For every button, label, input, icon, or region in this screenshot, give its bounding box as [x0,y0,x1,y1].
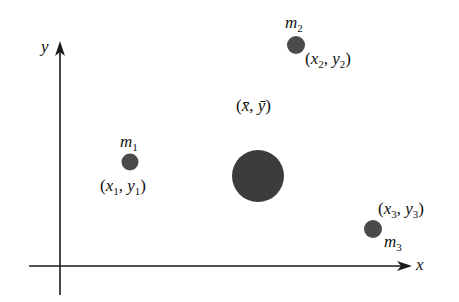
mass-1-y: y [127,176,135,195]
mass-2-name: m2 [285,14,303,31]
mass-2-coords: (x2, y2) [305,50,351,67]
diagram-canvas [0,0,459,302]
mass-2-name-base: m [285,13,297,32]
mass-3-name-base: m [384,232,396,251]
paren-close: ) [345,49,351,68]
comma: , [324,49,333,68]
comma: , [249,96,258,115]
center-of-mass-point [232,150,284,202]
center-of-mass-coords: (x̄, ȳ) [236,97,271,114]
comma: , [119,176,128,195]
mass-3-coords: (x3, y3) [378,200,424,217]
paren-close: ) [418,199,424,218]
paren-close: ) [140,176,146,195]
y-axis-label: y [41,38,49,55]
y-axis-label-text: y [41,37,49,56]
x-axis-label-text: x [416,255,424,274]
mass-2-point [287,36,305,54]
mass-1-name: m1 [120,133,138,150]
mass-3-name: m3 [384,233,402,250]
mass-3-y: y [405,199,413,218]
paren-close: ) [265,96,271,115]
mass-1-name-base: m [120,132,132,151]
mass-3-name-sub: 3 [396,241,402,253]
mass-1-point [122,154,139,171]
mass-1-coords: (x1, y1) [100,177,146,194]
comma: , [397,199,406,218]
mass-3-point [364,220,382,238]
mass-1-name-sub: 1 [132,141,138,153]
mass-2-name-sub: 2 [297,22,303,34]
x-axis-label: x [416,256,424,273]
mass-2-y: y [332,49,340,68]
